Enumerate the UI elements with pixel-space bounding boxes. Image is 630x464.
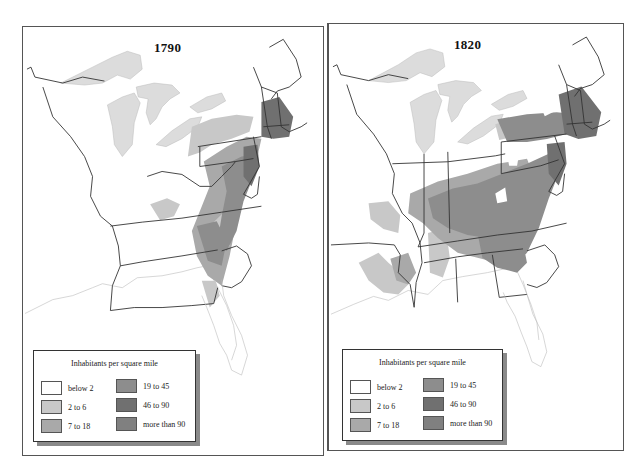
legend-item-7-to-18: 7 to 18 bbox=[41, 419, 90, 433]
density-legend: Inhabitants per square mile below 2 2 to… bbox=[342, 349, 503, 441]
gulf-coast bbox=[25, 266, 237, 360]
density-legend: Inhabitants per square mile below 2 2 to… bbox=[33, 350, 196, 442]
legend-item-19-to-45: 19 to 45 bbox=[423, 378, 476, 392]
legend-label: below 2 bbox=[377, 383, 403, 392]
legend-label: 2 to 6 bbox=[68, 403, 86, 412]
legend-swatch bbox=[116, 379, 137, 393]
legend-item-46-to-90: 46 to 90 bbox=[423, 397, 476, 411]
legend-label: more than 90 bbox=[450, 419, 492, 428]
map-panel-1790: 1790 Inhabitants per square mile below 2… bbox=[22, 26, 324, 456]
legend-title: Inhabitants per square mile bbox=[34, 359, 195, 368]
legend-label: 19 to 45 bbox=[143, 382, 169, 391]
legend-item-7-to-18: 7 to 18 bbox=[350, 418, 399, 432]
map-panel-1820: 1820 Inhabitants per square mile below 2… bbox=[327, 23, 624, 451]
legend-swatch bbox=[116, 417, 137, 431]
legend-label: below 2 bbox=[68, 384, 94, 393]
legend-item-below-2: below 2 bbox=[350, 380, 403, 394]
legend-swatch bbox=[350, 418, 371, 432]
florida-coast bbox=[503, 281, 547, 367]
legend-swatch bbox=[350, 399, 371, 413]
legend-label: 2 to 6 bbox=[377, 402, 395, 411]
legend-item-2-to-6: 2 to 6 bbox=[41, 400, 86, 414]
legend-item-19-to-45: 19 to 45 bbox=[116, 379, 169, 393]
legend-swatch bbox=[41, 419, 62, 433]
legend-item-46-to-90: 46 to 90 bbox=[116, 398, 169, 412]
map-title: 1820 bbox=[454, 37, 481, 53]
legend-label: 46 to 90 bbox=[143, 401, 169, 410]
legend-swatch bbox=[423, 416, 444, 430]
legend-item-below-2: below 2 bbox=[41, 381, 94, 395]
legend-title: Inhabitants per square mile bbox=[343, 358, 502, 367]
legend-label: more than 90 bbox=[143, 420, 185, 429]
legend-swatch bbox=[41, 381, 62, 395]
legend-label: 46 to 90 bbox=[450, 400, 476, 409]
legend-item-more-than-90: more than 90 bbox=[116, 417, 185, 431]
legend-swatch bbox=[116, 398, 137, 412]
legend-label: 7 to 18 bbox=[68, 422, 90, 431]
legend-swatch bbox=[423, 378, 444, 392]
legend-swatch bbox=[423, 397, 444, 411]
legend-label: 7 to 18 bbox=[377, 421, 399, 430]
legend-item-more-than-90: more than 90 bbox=[423, 416, 492, 430]
map-title: 1790 bbox=[154, 40, 181, 56]
legend-swatch bbox=[41, 400, 62, 414]
legend-swatch bbox=[350, 380, 371, 394]
legend-item-2-to-6: 2 to 6 bbox=[350, 399, 395, 413]
legend-label: 19 to 45 bbox=[450, 381, 476, 390]
